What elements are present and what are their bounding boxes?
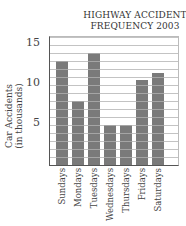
gridline-overlay [50,109,178,110]
gridline-overlay [50,53,178,54]
gridline-overlay [50,69,178,70]
bar-saturdays [152,73,164,165]
gridline-overlay [50,157,178,158]
x-tick-label: Sundays [56,168,68,226]
gridline-overlay [50,37,178,38]
x-tick-label: Wednesdays [104,168,116,226]
plot-area [49,36,179,166]
y-tick-label: 10 [20,77,40,89]
gridline-overlay [50,101,178,102]
x-tick-label: Saturdays [152,168,164,226]
chart-title: HIGHWAY ACCIDENT FREQUENCY 2003 [80,10,186,32]
x-tick-label: Thursdays [120,168,132,226]
gridline-overlay [50,125,178,126]
bar-thursdays [120,125,132,165]
x-tick-label: Fridays [136,168,148,226]
y-axis-label-line-1: Car Accidents [4,76,14,156]
gridline-overlay [50,133,178,134]
chart-title-line-2: FREQUENCY 2003 [80,21,186,32]
gridline-overlay [50,141,178,142]
gridline-overlay [50,45,178,46]
gridline-overlay [50,77,178,78]
bar-wednesdays [104,125,116,165]
y-tick-label: 15 [20,37,40,49]
gridline-overlay [50,61,178,62]
x-tick-label: Tuesdays [88,168,100,226]
x-tick-label: Mondays [72,168,84,226]
gridline-overlay [50,93,178,94]
chart-title-line-1: HIGHWAY ACCIDENT [80,10,186,21]
gridline-overlay [50,149,178,150]
gridline-overlay [50,85,178,86]
y-tick-label: 5 [20,117,40,129]
gridline-overlay [50,117,178,118]
